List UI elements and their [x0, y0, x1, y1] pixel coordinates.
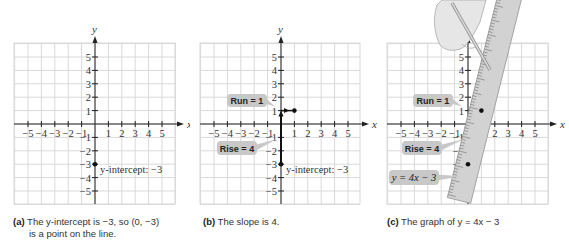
x-axis-label: x — [559, 118, 565, 130]
x-tick-label: −3 — [235, 128, 246, 139]
run-arrow-icon — [284, 108, 289, 113]
callout-text: Run = 1 — [231, 96, 264, 106]
x-tick-label: 3 — [133, 128, 138, 139]
callout-text: y = 4x − 3 — [391, 172, 437, 183]
x-tick-label: 1 — [292, 128, 297, 139]
x-tick-label: −2 — [63, 128, 74, 139]
y-tick-label: 2 — [86, 92, 91, 103]
point-1-1 — [479, 108, 484, 113]
y-intercept-point — [279, 162, 284, 167]
y-intercept-point — [93, 162, 98, 167]
y-tick-label: −5 — [266, 186, 277, 197]
x-tick-label: 5 — [345, 128, 350, 139]
panel-c: xy−5−4−3−2−11234554321−1−2−3−4−5Run = 1R… — [380, 0, 569, 248]
x-tick-label: 5 — [532, 128, 537, 139]
y-tick-label: 3 — [86, 79, 91, 90]
y-intercept-label: y-intercept: −3 — [286, 164, 348, 175]
callout-text: Run = 1 — [417, 96, 450, 106]
caption-b: (b) The slope is 4. — [203, 216, 279, 228]
caption-label: (a) — [13, 216, 25, 227]
x-tick-label: −3 — [422, 128, 433, 139]
x-tick-label: 2 — [305, 128, 310, 139]
x-tick-label: 4 — [146, 128, 152, 139]
y-tick-label: 5 — [272, 52, 277, 63]
coordinate-grid-a: xy−5−4−3−2−11234554321−1−2−3−4−5y-interc… — [0, 0, 190, 215]
x-tick-label: 1 — [106, 128, 111, 139]
caption-label: (c) — [387, 216, 399, 227]
y-intercept-label: y-intercept: −3 — [100, 164, 162, 175]
panel-a: xy−5−4−3−2−11234554321−1−2−3−4−5y-interc… — [0, 0, 190, 248]
axes: xy−5−4−3−2−11234554321−1−2−3−4−5 — [200, 23, 377, 204]
y-axis-label: y — [91, 23, 97, 35]
y-tick-label: 3 — [272, 79, 277, 90]
y-tick-label: −5 — [80, 186, 91, 197]
y-tick-label: 4 — [459, 65, 465, 76]
y-tick-label: −1 — [80, 132, 91, 143]
y-axis-arrow-icon — [279, 36, 284, 43]
callout-text: Rise = 4 — [220, 144, 254, 154]
y-tick-label: 2 — [459, 92, 464, 103]
x-axis-arrow-icon — [177, 122, 184, 127]
caption-line-2: is a point on the line. — [13, 228, 116, 239]
caption-a: (a) The y-intercept is −3, so (0, −3) is… — [13, 216, 159, 240]
x-tick-label: 4 — [519, 128, 525, 139]
x-tick-label: −3 — [49, 128, 60, 139]
caption-line-1: The graph of y = 4x − 3 — [401, 216, 499, 227]
x-tick-label: −4 — [36, 128, 48, 139]
x-tick-label: −5 — [22, 128, 33, 139]
caption-c: (c) The graph of y = 4x − 3 — [387, 216, 499, 228]
y-tick-label: 2 — [272, 92, 277, 103]
y-tick-label: 5 — [459, 52, 464, 63]
x-axis-label: x — [371, 118, 377, 130]
y-axis-label: y — [277, 23, 283, 35]
x-tick-label: −2 — [436, 128, 447, 139]
y-axis-arrow-icon — [93, 36, 98, 43]
rise-arrow-icon — [279, 111, 284, 117]
y-tick-label: −3 — [266, 159, 277, 170]
x-tick-label: −4 — [222, 128, 234, 139]
caption-label: (b) — [203, 216, 215, 227]
x-tick-label: 4 — [332, 128, 338, 139]
caption-line-1: The y-intercept is −3, so (0, −3) — [27, 216, 159, 227]
axes: xy−5−4−3−2−11234554321−1−2−3−4−5 — [14, 23, 190, 204]
y-tick-label: −4 — [80, 173, 92, 184]
y-tick-label: 1 — [272, 106, 277, 117]
x-tick-label: −5 — [208, 128, 219, 139]
point-1-1 — [292, 108, 297, 113]
x-tick-label: −2 — [249, 128, 260, 139]
y-tick-label: 3 — [459, 79, 464, 90]
y-intercept-point — [466, 162, 471, 167]
y-tick-label: 4 — [86, 65, 92, 76]
x-axis-arrow-icon — [362, 122, 369, 127]
y-tick-label: 1 — [86, 106, 91, 117]
y-tick-label: 4 — [272, 65, 278, 76]
x-tick-label: 3 — [319, 128, 324, 139]
x-tick-label: 2 — [119, 128, 124, 139]
y-tick-label: 5 — [86, 52, 91, 63]
x-tick-label: −4 — [409, 128, 421, 139]
x-tick-label: 5 — [159, 128, 164, 139]
y-tick-label: −2 — [80, 146, 91, 157]
coordinate-grid-b: xy−5−4−3−2−11234554321−1−2−3−4−5y-interc… — [190, 0, 380, 215]
caption-line-1: The slope is 4. — [218, 216, 280, 227]
x-tick-label: 2 — [492, 128, 497, 139]
y-tick-label: −2 — [266, 146, 277, 157]
x-tick-label: −5 — [395, 128, 406, 139]
callout-text: Rise = 4 — [405, 144, 439, 154]
y-tick-label: 1 — [459, 106, 464, 117]
y-tick-label: −4 — [266, 173, 278, 184]
coordinate-grid-c: xy−5−4−3−2−11234554321−1−2−3−4−5Run = 1R… — [380, 0, 569, 215]
y-tick-label: −3 — [80, 159, 91, 170]
x-axis-arrow-icon — [550, 122, 557, 127]
equation-callout: y = 4x − 3 — [389, 170, 461, 185]
x-tick-label: 3 — [506, 128, 511, 139]
panel-b: xy−5−4−3−2−11234554321−1−2−3−4−5y-interc… — [190, 0, 380, 248]
